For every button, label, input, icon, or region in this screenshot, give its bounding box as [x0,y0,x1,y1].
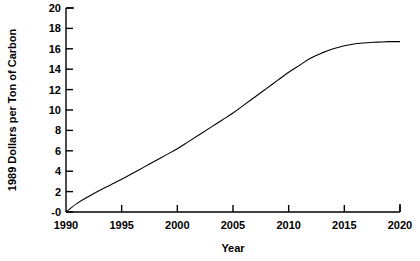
x-tick-label: 1990 [54,219,78,231]
y-tick-label: -0 [51,206,61,218]
y-tick-label: 18 [49,22,61,34]
x-tick-label: 2015 [332,219,356,231]
chart-container: -02468101214161820 199019952000200520102… [0,0,420,261]
y-tick-label: 10 [49,104,61,116]
y-tick-label: 12 [49,84,61,96]
y-axis-title: 1989 Dollars per Ton of Carbon [6,29,18,192]
x-axis-title: Year [221,242,245,254]
x-tick-label: 2010 [276,219,300,231]
y-tick-label: 20 [49,2,61,14]
x-tick-label: 1995 [109,219,133,231]
y-tick-label: 14 [49,63,62,75]
y-tick-label: 4 [55,165,62,177]
y-tick-label: 8 [55,124,61,136]
line-chart: -02468101214161820 199019952000200520102… [0,0,420,261]
x-tick-label: 2005 [221,219,245,231]
x-tick-label: 2000 [165,219,189,231]
y-tick-label: 2 [55,186,61,198]
x-tick-label: 2020 [388,219,412,231]
y-tick-label: 16 [49,43,61,55]
y-tick-label: 6 [55,145,61,157]
